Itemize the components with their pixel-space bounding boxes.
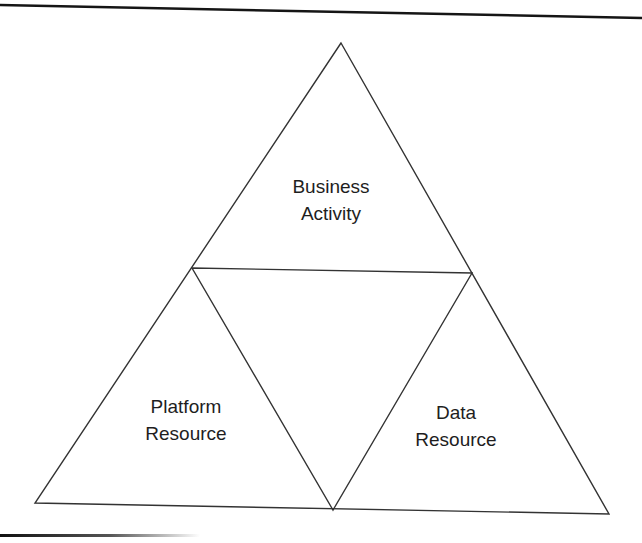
bottom-rule: [0, 534, 200, 537]
label-line: Business: [292, 173, 369, 200]
label-line: Platform: [145, 393, 226, 420]
inner-triangle: [192, 268, 472, 510]
label-line: Data: [415, 399, 496, 426]
label-platform-resource: Platform Resource: [145, 393, 226, 447]
label-data-resource: Data Resource: [415, 399, 496, 453]
outer-triangle: [35, 43, 609, 514]
triangle-diagram: [0, 0, 642, 543]
label-line: Activity: [292, 200, 369, 227]
label-line: Resource: [415, 426, 496, 453]
label-line: Resource: [145, 420, 226, 447]
top-rule: [0, 5, 642, 18]
label-business-activity: Business Activity: [292, 173, 369, 227]
